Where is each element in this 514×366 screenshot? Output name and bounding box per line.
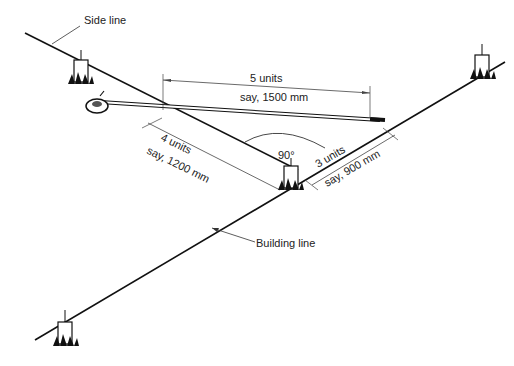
side-line-label: Side line [84, 14, 126, 26]
right-angle-arc [245, 133, 325, 148]
setout-diagram: Side line Building line 5 units say, 150… [0, 0, 514, 366]
side-line-leader [52, 26, 80, 44]
dim-four-units: 4 units say, 1200 mm [142, 118, 280, 190]
five-units-label: 5 units [250, 72, 283, 84]
angle-label: 90° [278, 149, 295, 161]
dim-three-units: 3 units say, 900 mm [305, 128, 398, 190]
diagram-canvas: Side line Building line 5 units say, 150… [0, 0, 514, 366]
peg-side-line [68, 50, 94, 84]
tape-measure [86, 91, 385, 120]
five-mm-label: say, 1500 mm [240, 91, 308, 103]
peg-building-line-right [470, 44, 496, 79]
building-line-leader [212, 228, 255, 242]
building-line-label: Building line [256, 237, 315, 249]
